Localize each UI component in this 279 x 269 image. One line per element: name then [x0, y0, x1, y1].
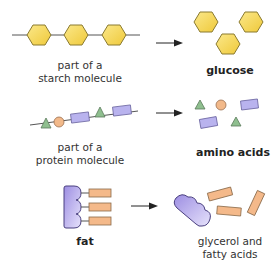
starch-chain	[12, 25, 140, 45]
hexagon-icon	[194, 12, 218, 32]
triangle-icon	[95, 107, 105, 117]
hexagon-icon	[216, 34, 240, 54]
fat-label: fat	[55, 235, 115, 248]
digestion-diagram	[0, 0, 279, 269]
glycerol-icon	[174, 195, 210, 227]
fatty-acid-icon	[89, 189, 111, 197]
hexagon-icon	[64, 25, 88, 45]
circle-icon	[216, 100, 226, 110]
arrow-icon	[156, 110, 183, 117]
circle-icon	[54, 117, 64, 127]
arrow-icon	[156, 40, 183, 47]
triangle-icon	[195, 100, 205, 109]
rectangle-icon	[199, 117, 217, 129]
arrow-icon	[131, 203, 158, 210]
fatty-acid-icon	[89, 203, 111, 211]
fatty-acid-icon	[207, 187, 232, 201]
triangle-icon	[231, 117, 241, 126]
glucose-molecules	[194, 12, 263, 54]
glycerol-icon	[64, 186, 81, 228]
glycerol-fatty-acids-label: glycerol and fatty acids	[185, 235, 275, 261]
amino-acid-molecules	[195, 99, 258, 128]
rectangle-icon	[113, 105, 132, 116]
glycerol-and-fatty-acids	[174, 187, 264, 226]
protein-chain	[30, 105, 138, 128]
hexagon-icon	[239, 12, 263, 32]
rectangle-icon	[71, 112, 90, 123]
fatty-acid-icon	[247, 190, 264, 215]
glucose-label: glucose	[190, 64, 270, 77]
protein-label: part of a protein molecule	[30, 141, 130, 167]
starch-label: part of a starch molecule	[30, 59, 130, 85]
fatty-acid-icon	[89, 217, 111, 225]
hexagon-icon	[102, 25, 126, 45]
amino-acids-label: amino acids	[190, 146, 276, 159]
hexagon-icon	[27, 25, 51, 45]
rectangle-icon	[241, 99, 259, 110]
fatty-acid-icon	[217, 206, 242, 216]
fat-molecule	[64, 186, 111, 228]
